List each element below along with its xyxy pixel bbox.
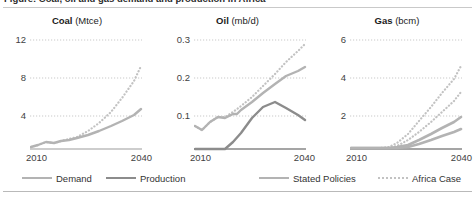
panel-title-oil-unit: (mb/d) (231, 15, 258, 26)
series-coal-stated-policies (31, 109, 141, 147)
figure-caption-strip: Figure: Coal, oil and gas demand and pro… (0, 0, 475, 6)
xtick-oil-2040: 2040 (294, 152, 315, 163)
figure-caption: Figure: Coal, oil and gas demand and pro… (4, 0, 265, 4)
plot-coal (30, 28, 148, 152)
legend-swatch-demand-icon (22, 177, 52, 179)
plot-svg-oil (194, 28, 312, 152)
chart-legend: Demand Production Stated Policies Africa… (0, 170, 475, 186)
legend-item-production[interactable]: Production (106, 170, 185, 186)
legend-item-stated-policies[interactable]: Stated Policies (259, 170, 356, 186)
plot-svg-coal (30, 28, 148, 152)
legend-label-production: Production (140, 173, 185, 184)
series-gas-stated-policies-demand (351, 117, 461, 148)
plot-gas (350, 28, 468, 152)
series-oil-production (195, 102, 305, 149)
legend-label-demand: Demand (56, 173, 92, 184)
ytick-oil-01: 0.1 (177, 111, 190, 121)
panel-title-coal-name: Coal (52, 15, 73, 26)
legend-item-demand[interactable]: Demand (22, 170, 92, 186)
legend-label-africa-case: Africa Case (412, 173, 461, 184)
panel-oil: Oil (mb/d) 0.3 0.2 0.1 2010 2040 (160, 14, 315, 166)
panel-title-oil-name: Oil (216, 15, 229, 26)
top-divider (3, 7, 472, 8)
series-gas-africa-case-production (351, 92, 461, 148)
xtick-gas-2040: 2040 (451, 152, 472, 163)
panel-gas: Gas (bcm) 6 4 2 2010 (322, 14, 472, 166)
ytick-coal-4: 4 (21, 111, 26, 121)
plot-oil (194, 28, 312, 152)
panel-title-coal: Coal (Mtce) (2, 15, 152, 26)
legend-swatch-production-icon (106, 177, 136, 179)
figure-container: Figure: Coal, oil and gas demand and pro… (0, 0, 475, 201)
ytick-gas-2: 2 (341, 111, 346, 121)
xtick-coal-2040: 2040 (131, 152, 152, 163)
bottom-divider (3, 191, 472, 192)
xtick-coal-2010: 2010 (26, 152, 47, 163)
ytick-oil-02: 0.2 (177, 73, 190, 83)
legend-swatch-stated-policies-icon (259, 177, 289, 179)
series-oil-africa-case (195, 44, 305, 130)
plot-svg-gas (350, 28, 468, 152)
panel-title-oil: Oil (mb/d) (160, 15, 315, 26)
ytick-coal-12: 12 (15, 35, 26, 45)
legend-item-africa-case[interactable]: Africa Case (378, 170, 461, 186)
ytick-coal-8: 8 (21, 73, 26, 83)
panel-title-gas: Gas (bcm) (322, 15, 472, 26)
xtick-oil-2010: 2010 (190, 152, 211, 163)
xtick-gas-2010: 2010 (346, 152, 367, 163)
ytick-oil-03: 0.3 (177, 35, 190, 45)
panel-coal: Coal (Mtce) 12 8 4 2010 2040 (2, 14, 152, 166)
ytick-gas-4: 4 (341, 73, 346, 83)
legend-swatch-africa-case-icon (378, 177, 408, 179)
ytick-gas-6: 6 (341, 35, 346, 45)
legend-label-stated-policies: Stated Policies (293, 173, 356, 184)
panel-title-gas-name: Gas (375, 15, 393, 26)
panel-title-gas-unit: (bcm) (395, 15, 419, 26)
panel-title-coal-unit: (Mtce) (75, 15, 102, 26)
